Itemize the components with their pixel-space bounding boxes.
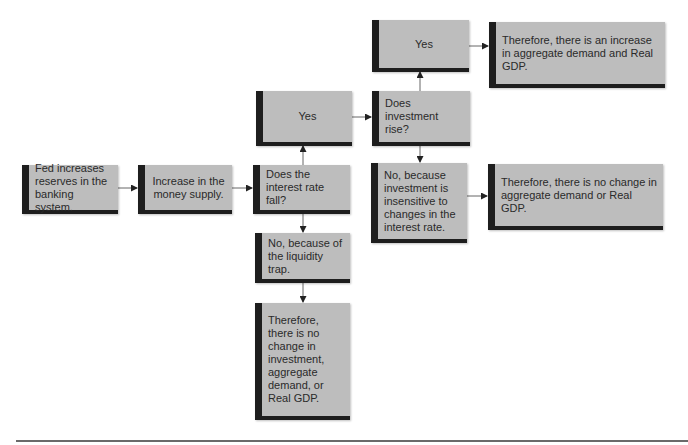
- node-increase-result: Therefore, there is an increase in aggre…: [489, 22, 665, 88]
- node-no-change-all: Therefore, there is no change in investm…: [255, 303, 350, 420]
- node-label: No, because of the liquidity trap.: [262, 237, 350, 276]
- bottom-divider: [16, 440, 688, 442]
- node-yes-rate: Yes: [256, 91, 352, 146]
- node-investment-rise: Does investment rise?: [372, 91, 470, 146]
- node-label: Does investment rise?: [379, 97, 470, 136]
- node-label: Does the interest rate fall?: [260, 168, 350, 207]
- node-label: Therefore, there is an increase in aggre…: [496, 34, 665, 73]
- node-label: No, because investment is insensitive to…: [378, 169, 467, 234]
- node-fed-increases-reserves: Fed increases reserves in the banking sy…: [22, 165, 118, 214]
- node-yes-investment: Yes: [372, 20, 469, 72]
- node-interest-rate-fall: Does the interest rate fall?: [253, 165, 350, 214]
- node-label: Therefore, there is no change in investm…: [262, 314, 350, 405]
- node-label: Yes: [409, 38, 439, 51]
- node-label: Yes: [293, 110, 323, 123]
- node-label: Fed increases reserves in the banking sy…: [29, 162, 118, 214]
- node-no-investment-insensitive: No, because investment is insensitive to…: [371, 163, 467, 243]
- node-no-change-ad: Therefore, there is no change in aggrega…: [488, 164, 663, 230]
- node-label: Increase in the money supply.: [145, 175, 232, 201]
- node-money-supply: Increase in the money supply.: [138, 165, 232, 214]
- node-no-liquidity-trap: No, because of the liquidity trap.: [255, 233, 350, 283]
- node-label: Therefore, there is no change in aggrega…: [495, 176, 663, 215]
